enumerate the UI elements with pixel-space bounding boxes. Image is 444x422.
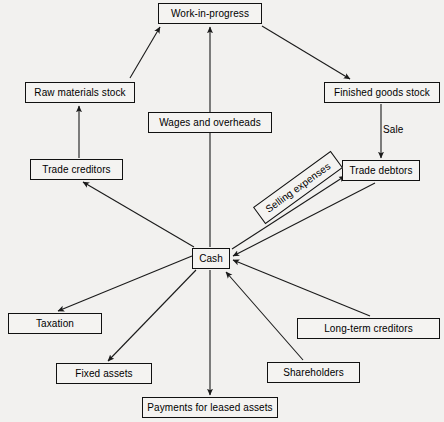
node-cash[interactable]: Cash — [192, 248, 230, 269]
node-taxation[interactable]: Taxation — [8, 313, 102, 334]
edge-longterm-to-cash — [233, 260, 370, 316]
node-shareholders[interactable]: Shareholders — [267, 362, 360, 383]
node-long_term_creditors[interactable]: Long-term creditors — [297, 318, 440, 339]
node-label-long_term_creditors: Long-term creditors — [324, 324, 413, 334]
edge-wip-to-finished — [262, 26, 350, 79]
node-label-work_in_progress: Work-in-progress — [171, 9, 249, 19]
node-label-cash: Cash — [199, 254, 223, 264]
edge-cash-to-taxation — [58, 256, 192, 311]
edge-cash-to-creditors — [83, 182, 194, 247]
edge-cash-to-fixed — [108, 270, 196, 361]
node-label-finished_goods_stock: Finished goods stock — [334, 88, 430, 98]
edge-shareholders-to-cash — [226, 272, 303, 360]
node-finished_goods_stock[interactable]: Finished goods stock — [324, 82, 440, 103]
node-label-raw_materials_stock: Raw materials stock — [34, 88, 125, 98]
node-work_in_progress[interactable]: Work-in-progress — [158, 3, 262, 24]
node-label-taxation: Taxation — [36, 319, 74, 329]
node-fixed_assets[interactable]: Fixed assets — [56, 363, 152, 384]
diagram-canvas: Work-in-progressRaw materials stockFinis… — [0, 0, 444, 422]
node-wages_and_overheads[interactable]: Wages and overheads — [148, 112, 272, 133]
node-label-fixed_assets: Fixed assets — [75, 369, 132, 379]
node-label-trade_creditors: Trade creditors — [42, 165, 110, 175]
node-label-wages_and_overheads: Wages and overheads — [159, 118, 261, 128]
diagram-edges-layer — [0, 0, 444, 422]
node-label-shareholders: Shareholders — [283, 368, 344, 378]
edge-raw-to-wip — [130, 27, 160, 78]
node-trade_creditors[interactable]: Trade creditors — [30, 159, 123, 180]
node-label-payments_leased_assets: Payments for leased assets — [147, 403, 272, 413]
node-label-trade_debtors: Trade debtors — [349, 166, 412, 176]
node-payments_leased_assets[interactable]: Payments for leased assets — [142, 397, 278, 418]
label-sale_label: Sale — [383, 124, 403, 135]
node-trade_debtors[interactable]: Trade debtors — [342, 160, 420, 181]
node-raw_materials_stock[interactable]: Raw materials stock — [25, 82, 135, 103]
